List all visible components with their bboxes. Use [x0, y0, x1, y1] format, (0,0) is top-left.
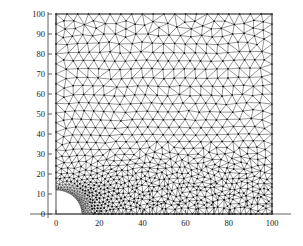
- y-axis-tick-label: 50: [37, 110, 46, 119]
- x-axis-tick-label: 100: [252, 219, 292, 228]
- y-axis-tick-label: 20: [37, 170, 46, 179]
- y-axis-tick-label: 40: [37, 130, 46, 139]
- y-axis-tick-label: 90: [37, 30, 46, 39]
- mesh-figure: 0102030405060708090100 020406080100: [0, 0, 303, 246]
- y-axis-tick-label: 60: [37, 90, 46, 99]
- y-axis-tick-label: 70: [37, 70, 46, 79]
- y-axis-tick-label: 100: [32, 10, 45, 19]
- y-axis-tick-label: 30: [37, 150, 46, 159]
- x-axis-tick-label: 60: [166, 219, 206, 228]
- y-axis-tick-label: 10: [37, 190, 46, 199]
- x-axis-tick-label: 20: [79, 219, 119, 228]
- x-axis-tick-label: 80: [209, 219, 249, 228]
- mesh-node-markers: [55, 13, 272, 214]
- y-axis-tick-label: 80: [37, 50, 46, 59]
- y-axis-tick-label: 0: [41, 210, 45, 219]
- x-axis-tick-label: 0: [36, 219, 76, 228]
- mesh-nodes: [55, 13, 272, 214]
- mesh-plot-canvas: [0, 0, 303, 246]
- x-axis-tick-label: 40: [122, 219, 162, 228]
- y-axis-ticks: [48, 14, 52, 214]
